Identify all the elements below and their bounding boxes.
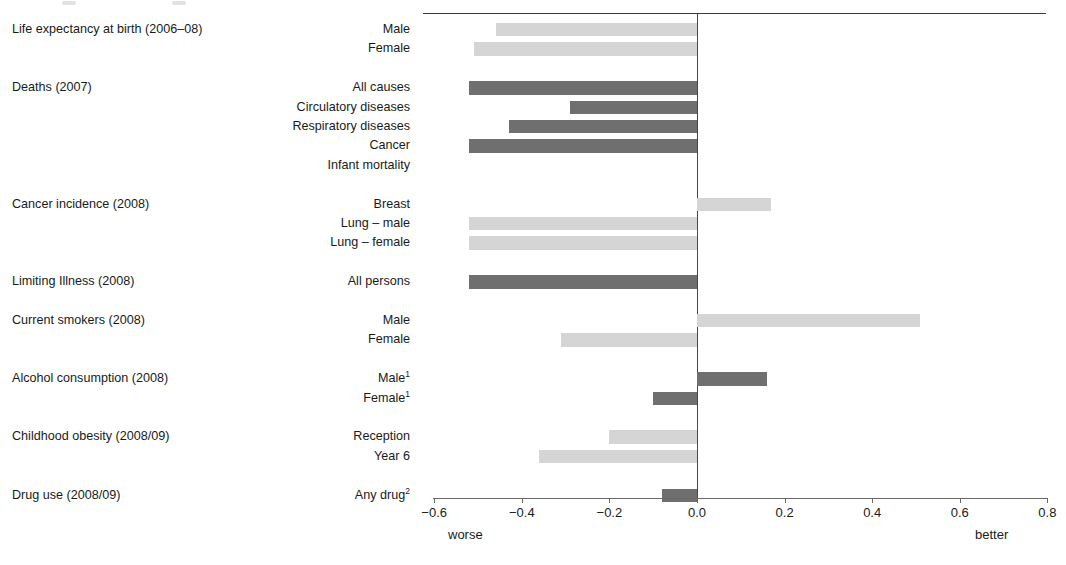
axis-tick-label: −0.6	[399, 505, 469, 520]
chart-bar	[469, 275, 697, 289]
chart-bar	[469, 81, 697, 95]
axis-tick-label: −0.2	[574, 505, 644, 520]
axis-better-label: better	[975, 527, 1008, 542]
chart-bar	[474, 42, 697, 56]
chart-figure: Life expectancy at birth (2006–08)MaleFe…	[0, 0, 1066, 565]
chart-bar	[697, 198, 771, 212]
axis-worse-label: worse	[448, 527, 483, 542]
axis-tick	[522, 498, 523, 503]
chart-bar	[469, 217, 697, 231]
axis-tick-label: 0.0	[662, 505, 732, 520]
chart-bar	[697, 314, 920, 328]
chart-bar	[509, 120, 697, 134]
x-axis-line	[433, 498, 1048, 499]
axis-tick	[697, 498, 698, 503]
axis-tick	[872, 498, 873, 503]
axis-tick	[960, 498, 961, 503]
chart-bar	[469, 139, 697, 153]
chart-bar	[662, 489, 697, 503]
chart-plot-area	[0, 0, 1066, 500]
zero-reference-line	[697, 14, 698, 498]
chart-bar	[697, 372, 767, 386]
axis-tick-label: 0.6	[925, 505, 995, 520]
chart-bar	[469, 236, 697, 250]
axis-tick	[785, 498, 786, 503]
axis-tick	[609, 498, 610, 503]
axis-tick-label: 0.2	[750, 505, 820, 520]
chart-bar	[570, 101, 697, 115]
chart-bar	[496, 23, 697, 37]
axis-tick	[1047, 498, 1048, 503]
axis-tick-label: −0.4	[487, 505, 557, 520]
chart-bar	[609, 430, 697, 444]
chart-bar	[539, 450, 697, 464]
axis-tick-label: 0.8	[1012, 505, 1066, 520]
chart-bar	[561, 333, 697, 347]
chart-bar	[653, 392, 697, 406]
axis-tick-label: 0.4	[837, 505, 907, 520]
axis-tick	[434, 498, 435, 503]
